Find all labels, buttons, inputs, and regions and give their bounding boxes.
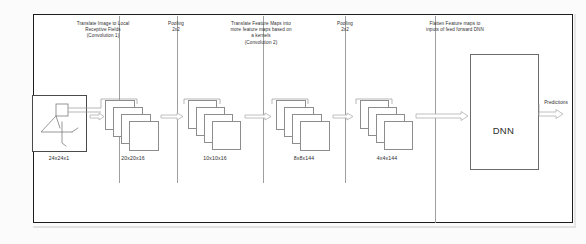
dimension-input: 24x24x1 [30, 155, 88, 162]
dimension-pool2: 4x4x144 [358, 155, 416, 162]
dimension-pool1: 10x10x16 [186, 155, 244, 162]
dimension-conv1: 20x20x16 [104, 155, 162, 162]
caption-pool1: Pooling2x2 [145, 21, 207, 33]
separator-5 [435, 16, 436, 223]
separator-4 [345, 16, 346, 183]
predictions-label: Predictions [532, 100, 580, 105]
pool2-card-4 [384, 121, 413, 150]
pool1-card-4 [212, 121, 241, 150]
diagram-canvas: Translate Image to LocalReceptive Fields… [0, 0, 586, 244]
input-image-box [32, 95, 87, 152]
dnn-block [470, 54, 539, 170]
dnn-label: DNN [470, 125, 537, 136]
separator-2 [177, 16, 178, 183]
conv1-card-4 [129, 121, 159, 151]
caption-pool2: Pooling2x2 [315, 21, 375, 33]
page-edge-right [574, 14, 576, 226]
caption-flatten: Flatten Feature maps toinputs of feed fo… [395, 21, 515, 33]
conv2-card-4 [300, 121, 330, 151]
page-edge-bottom [33, 226, 576, 228]
caption-conv2: Translate Feature Maps intomore feature … [200, 21, 322, 46]
dimension-conv2: 8x8x144 [275, 155, 333, 162]
